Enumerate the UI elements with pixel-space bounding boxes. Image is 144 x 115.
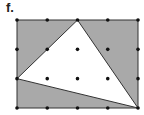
grid-dot	[76, 48, 80, 52]
grid-dot	[106, 18, 110, 22]
grid-dot	[15, 48, 19, 52]
grid-dot	[15, 18, 19, 22]
grid-diagram	[0, 0, 144, 115]
grid-dot	[106, 48, 110, 52]
grid-dot	[45, 106, 49, 110]
grid-dot	[15, 106, 19, 110]
grid-dot	[45, 48, 49, 52]
grid-dot	[136, 48, 140, 52]
grid-dot	[136, 106, 140, 110]
grid-dot	[106, 77, 110, 81]
grid-dot	[76, 77, 80, 81]
grid-dot	[76, 18, 80, 22]
grid-dot	[45, 18, 49, 22]
grid-dot	[15, 77, 19, 81]
grid-dot	[45, 77, 49, 81]
grid-dot	[106, 106, 110, 110]
grid-dot	[136, 18, 140, 22]
grid-dot	[76, 106, 80, 110]
grid-dot	[136, 77, 140, 81]
